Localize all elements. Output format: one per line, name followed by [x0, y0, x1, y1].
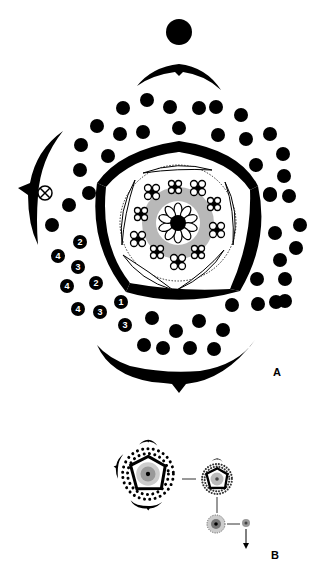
svg-text:3: 3 — [97, 307, 102, 317]
svg-text:1: 1 — [118, 297, 123, 307]
numbered-marker: 4 — [71, 302, 85, 316]
top-bract — [137, 64, 221, 90]
numbered-marker: 2 — [73, 235, 87, 249]
numbered-marker: 1 — [114, 295, 128, 309]
panel-label-b: B — [271, 549, 279, 561]
panel-b-flower-tiny — [242, 519, 250, 527]
floral-diagram: 2 4 3 4 2 1 4 3 3 — [0, 0, 319, 573]
svg-text:3: 3 — [122, 320, 127, 330]
numbered-marker: 4 — [51, 249, 65, 263]
numbered-marker: 3 — [71, 260, 85, 274]
svg-text:3: 3 — [75, 262, 80, 272]
panel-a-diagram: 2 4 3 4 2 1 4 3 3 — [18, 19, 307, 393]
svg-text:4: 4 — [64, 281, 69, 291]
numbered-marker: 4 — [60, 279, 74, 293]
numbered-marker: 2 — [89, 276, 103, 290]
numbered-marker: 3 — [118, 318, 132, 332]
axis-dot — [166, 19, 192, 45]
svg-text:4: 4 — [55, 251, 60, 261]
panel-b-flower-small — [207, 515, 225, 533]
panel-b-diagram — [114, 440, 250, 549]
panel-b-flower-large — [114, 440, 174, 511]
panel-label-a: A — [273, 366, 281, 378]
panel-b-flower-medium — [202, 458, 232, 494]
arrow-down-icon — [243, 529, 249, 549]
crossed-circle-marker — [38, 186, 52, 200]
svg-text:2: 2 — [93, 278, 98, 288]
numbered-marker: 3 — [93, 305, 107, 319]
bottom-bract — [97, 340, 255, 393]
svg-text:2: 2 — [77, 237, 82, 247]
svg-text:4: 4 — [75, 304, 80, 314]
